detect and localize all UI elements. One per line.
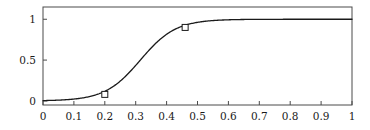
x-tick-label: 0.1	[66, 110, 83, 122]
x-tick-label: 0	[40, 110, 47, 122]
y-tick-label: 0	[29, 95, 36, 107]
x-tick-label: 0.9	[313, 110, 330, 122]
x-tick-label: 1	[349, 110, 356, 122]
y-tick-label: 0.5	[19, 54, 36, 66]
x-tick-label: 0.2	[96, 110, 113, 122]
data-point-marker	[182, 24, 188, 30]
x-axis-tick-labels: 00.10.20.30.40.50.60.70.80.91	[40, 110, 356, 122]
data-point-marker	[102, 91, 108, 97]
x-tick-label: 0.7	[251, 110, 268, 122]
y-axis-tick-labels: 00.51	[19, 13, 36, 107]
chart-figure: 00.10.20.30.40.50.60.70.80.91 00.51	[0, 0, 370, 130]
x-tick-label: 0.5	[189, 110, 206, 122]
x-tick-label: 0.8	[282, 110, 299, 122]
x-tick-label: 0.3	[127, 110, 144, 122]
y-tick-label: 1	[29, 13, 36, 25]
x-tick-label: 0.4	[158, 110, 175, 122]
logistic-curve-plot: 00.10.20.30.40.50.60.70.80.91 00.51	[0, 0, 370, 130]
x-tick-label: 0.6	[220, 110, 237, 122]
